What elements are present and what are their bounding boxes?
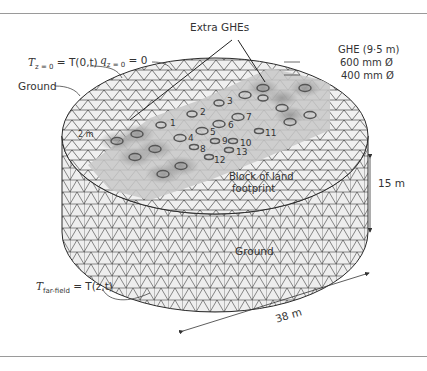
label-height: 15 m [378, 178, 405, 189]
ghe-number-12: 12 [214, 156, 225, 165]
label-ghe-600: 600 mm Ø [340, 58, 393, 68]
ghe-number-3: 3 [227, 97, 233, 106]
label-ghe-400: 400 mm Ø [341, 71, 394, 81]
label-top-flux-bc: qz = 0 = 0 [100, 55, 147, 69]
label-ghe-title: GHE (9·5 m) [338, 45, 399, 55]
label-2m: 2 m [78, 131, 93, 139]
ghe-number-8: 8 [200, 145, 206, 154]
ghe-number-9: 9 [222, 137, 228, 146]
ghe-number-1: 1 [170, 119, 176, 128]
ghe-number-4: 4 [188, 134, 194, 143]
ghe-number-6: 6 [228, 121, 234, 130]
ghe-number-7: 7 [246, 113, 252, 122]
ghe-number-2: 2 [200, 108, 206, 117]
label-block-footprint-1: Block of land [229, 172, 294, 182]
label-ground-side: Ground [235, 246, 274, 257]
ghe-number-11: 11 [265, 129, 276, 138]
leader-ground [55, 86, 80, 96]
label-extra-ghes: Extra GHEs [190, 22, 249, 33]
label-block-footprint-2: footprint [232, 184, 275, 194]
label-far-field-bc: Tfar-field = T(z,t) [36, 281, 113, 295]
ghe-number-5: 5 [210, 128, 216, 137]
label-top-temperature-bc: Tz = 0 = T(0,t) [28, 57, 98, 71]
ghe-number-13: 13 [236, 148, 247, 157]
label-ground-top: Ground [18, 81, 57, 92]
